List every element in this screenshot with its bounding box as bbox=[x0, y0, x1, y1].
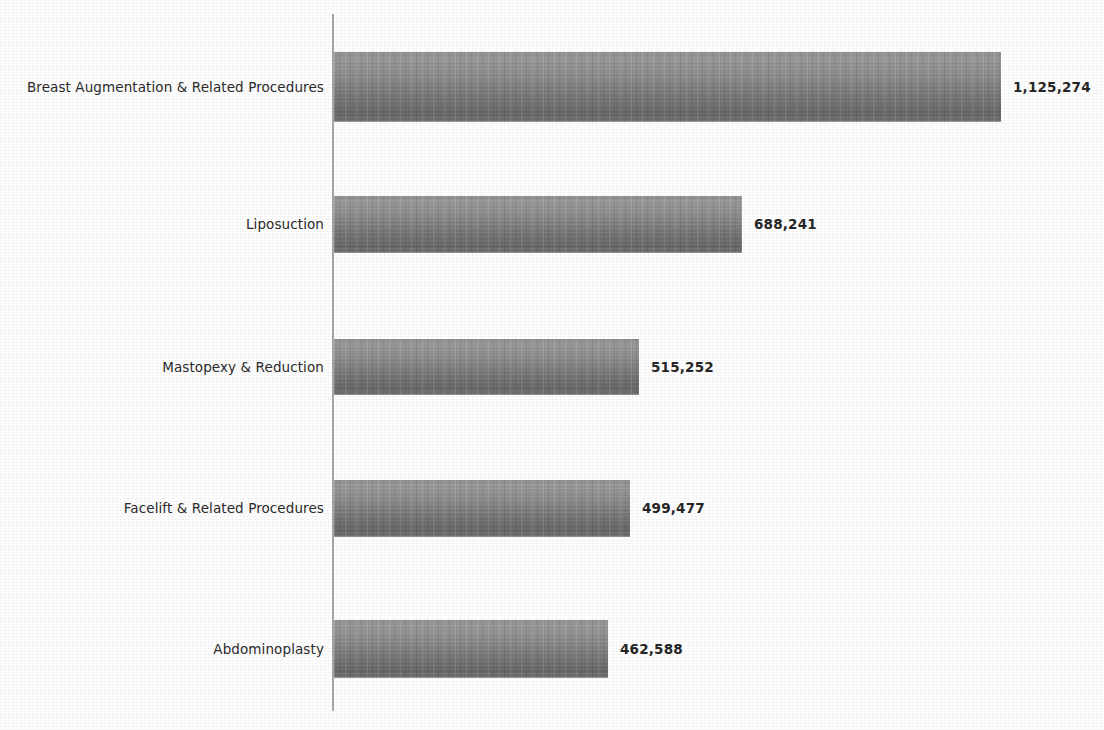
bar-fill bbox=[334, 196, 742, 253]
bar-chart: Breast Augmentation & Related Procedures… bbox=[0, 0, 1104, 730]
category-label: Liposuction bbox=[246, 196, 324, 253]
bar-fill bbox=[334, 620, 608, 678]
plot-area: Breast Augmentation & Related Procedures… bbox=[0, 0, 1104, 730]
bar bbox=[334, 196, 742, 253]
category-label: Facelift & Related Procedures bbox=[124, 480, 324, 537]
bar-value-label: 515,252 bbox=[651, 339, 714, 395]
bar-row: Mastopexy & Reduction515,252 bbox=[0, 339, 1104, 395]
bar-row: Facelift & Related Procedures499,477 bbox=[0, 480, 1104, 537]
bar-value-label: 499,477 bbox=[642, 480, 705, 537]
bar-fill bbox=[334, 339, 639, 395]
bar-row: Abdominoplasty462,588 bbox=[0, 620, 1104, 678]
category-label: Abdominoplasty bbox=[213, 620, 324, 678]
bar-fill bbox=[334, 480, 630, 537]
bar bbox=[334, 52, 1001, 122]
bar-value-label: 688,241 bbox=[754, 196, 817, 253]
category-label: Breast Augmentation & Related Procedures bbox=[27, 52, 324, 122]
bar bbox=[334, 339, 639, 395]
bar-row: Liposuction688,241 bbox=[0, 196, 1104, 253]
category-label: Mastopexy & Reduction bbox=[162, 339, 324, 395]
bar bbox=[334, 480, 630, 537]
bar-row: Breast Augmentation & Related Procedures… bbox=[0, 52, 1104, 122]
bar-value-label: 1,125,274 bbox=[1013, 52, 1091, 122]
bar-value-label: 462,588 bbox=[620, 620, 683, 678]
bar-fill bbox=[334, 52, 1001, 122]
bar bbox=[334, 620, 608, 678]
